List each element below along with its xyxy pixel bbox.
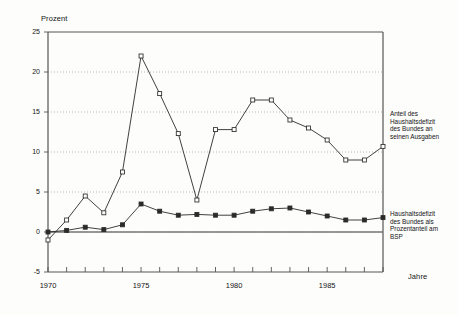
data-point-open-square <box>251 98 255 102</box>
data-point-filled-square <box>269 207 273 211</box>
x-tick-label: 1970 <box>31 281 65 290</box>
legend-series-1-label: Anteil des Haushaltsdefizit des Bundes a… <box>390 110 458 140</box>
legend-series-2-label: Haushaltsdefizit des Bundes als Prozenta… <box>390 210 458 240</box>
data-point-filled-square <box>362 218 366 222</box>
data-point-open-square <box>307 126 311 130</box>
data-point-filled-square <box>214 213 218 217</box>
data-point-open-square <box>46 238 50 242</box>
data-point-filled-square <box>46 230 50 234</box>
data-point-open-square <box>232 128 236 132</box>
data-point-open-square <box>269 98 273 102</box>
y-tick-label: 15 <box>18 108 40 115</box>
data-point-open-square <box>176 132 180 136</box>
data-point-filled-square <box>195 212 199 216</box>
data-point-open-square <box>362 158 366 162</box>
data-point-open-square <box>381 144 385 148</box>
line-chart-figure: Prozent Jahre Anteil des Haushaltsdefizi… <box>0 0 458 315</box>
y-tick-label: 20 <box>18 68 40 75</box>
data-point-open-square <box>65 218 69 222</box>
y-tick-label: 0 <box>18 228 40 235</box>
data-point-filled-square <box>251 209 255 213</box>
x-tick-label: 1985 <box>310 281 344 290</box>
data-point-open-square <box>344 158 348 162</box>
data-point-filled-square <box>325 214 329 218</box>
data-point-filled-square <box>65 228 69 232</box>
y-tick-label: 10 <box>18 148 40 155</box>
data-point-filled-square <box>83 225 87 229</box>
data-point-filled-square <box>288 206 292 210</box>
data-point-open-square <box>102 211 106 215</box>
data-point-open-square <box>195 198 199 202</box>
data-point-open-square <box>325 138 329 142</box>
y-tick-label: 25 <box>18 28 40 35</box>
data-point-open-square <box>288 118 292 122</box>
series-line-1 <box>48 56 383 240</box>
data-point-filled-square <box>120 223 124 227</box>
x-tick-label: 1975 <box>124 281 158 290</box>
data-point-open-square <box>139 54 143 58</box>
data-point-open-square <box>158 92 162 96</box>
data-point-filled-square <box>381 216 385 220</box>
y-tick-label: -5 <box>18 268 40 275</box>
data-point-filled-square <box>102 228 106 232</box>
data-point-filled-square <box>139 202 143 206</box>
figure-page: Prozent Jahre Anteil des Haushaltsdefizi… <box>0 0 458 315</box>
data-point-open-square <box>214 128 218 132</box>
data-point-filled-square <box>232 213 236 217</box>
data-point-filled-square <box>158 209 162 213</box>
data-point-open-square <box>83 194 87 198</box>
y-tick-label: 5 <box>18 188 40 195</box>
data-point-filled-square <box>307 210 311 214</box>
plot-area <box>0 0 458 315</box>
data-point-open-square <box>120 170 124 174</box>
data-point-filled-square <box>344 218 348 222</box>
x-tick-label: 1980 <box>217 281 251 290</box>
data-point-filled-square <box>176 213 180 217</box>
